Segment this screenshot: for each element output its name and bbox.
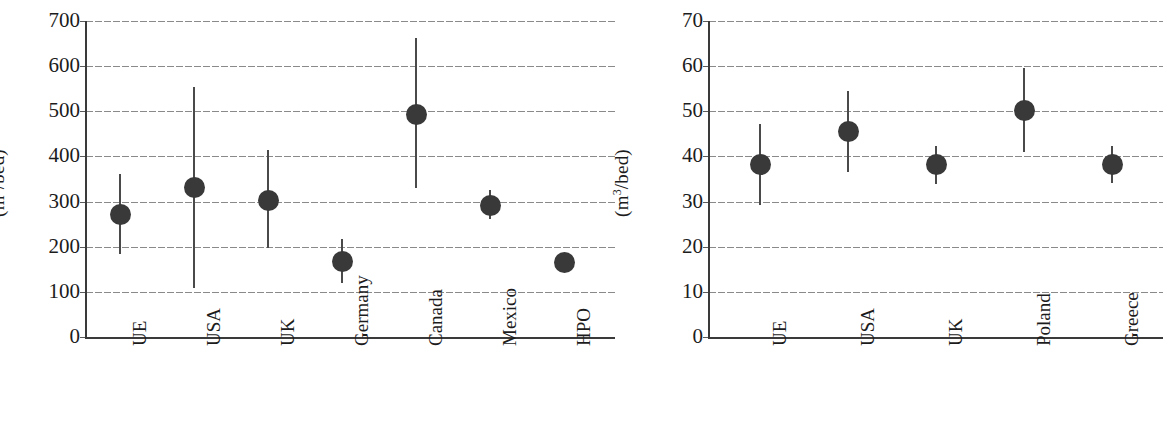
- y-tick-label: 600: [20, 55, 80, 76]
- y-tick-label: 30: [643, 191, 703, 212]
- data-point-marker: [480, 195, 501, 216]
- y-tick-mark: [80, 156, 85, 157]
- y-tick-label: 400: [20, 145, 80, 166]
- data-point-marker: [110, 204, 131, 225]
- y-tick-mark: [703, 292, 708, 293]
- y-tick-label: 50: [643, 100, 703, 121]
- x-tick-label: Canada: [425, 289, 447, 346]
- y-tick-label: 60: [643, 55, 703, 76]
- y-tick-mark: [80, 21, 85, 22]
- y-tick-mark: [80, 66, 85, 67]
- y-tick-label: 300: [20, 191, 80, 212]
- right-y-axis-line: [708, 21, 710, 339]
- data-point-group: [1004, 0, 1044, 426]
- left-plot-area: [85, 0, 615, 426]
- y-tick-mark: [703, 66, 708, 67]
- y-tick-label: 20: [643, 236, 703, 257]
- data-point-group: [248, 0, 288, 426]
- y-tick-mark: [80, 292, 85, 293]
- data-point-marker: [838, 121, 859, 142]
- y-tick-label: 40: [643, 145, 703, 166]
- data-point-marker: [1014, 100, 1035, 121]
- x-tick-label: UE: [129, 321, 151, 346]
- data-point-group: [916, 0, 956, 426]
- x-tick-label: Germany: [351, 275, 373, 346]
- y-tick-mark: [80, 202, 85, 203]
- right-plot-area: [708, 0, 1163, 426]
- data-point-group: [1092, 0, 1132, 426]
- y-tick-mark: [703, 21, 708, 22]
- y-tick-mark: [703, 337, 708, 338]
- y-tick-label: 70: [643, 10, 703, 31]
- panel-right: (m3/bed) 706050403020100 UEUSAUKPolandGr…: [620, 0, 1169, 426]
- data-point-group: [396, 0, 436, 426]
- data-point-group: [828, 0, 868, 426]
- data-point-group: [544, 0, 584, 426]
- y-tick-mark: [80, 337, 85, 338]
- x-tick-label: USA: [203, 308, 225, 346]
- x-tick-label: UK: [945, 319, 967, 346]
- y-tick-mark: [703, 111, 708, 112]
- left-y-axis-title-base: (m: [0, 195, 8, 217]
- y-tick-mark: [703, 202, 708, 203]
- y-tick-mark: [703, 247, 708, 248]
- y-tick-label: 10: [643, 281, 703, 302]
- data-point-marker: [1102, 154, 1123, 175]
- data-point-marker: [750, 154, 771, 175]
- x-tick-label: Greece: [1121, 292, 1143, 346]
- x-tick-label: Mexico: [499, 288, 521, 346]
- y-tick-label: 700: [20, 10, 80, 31]
- right-y-axis-title-base: (m: [611, 195, 632, 217]
- data-point-marker: [554, 252, 575, 273]
- data-point-group: [100, 0, 140, 426]
- right-y-axis-title-superscript: 3: [610, 189, 624, 195]
- data-point-marker: [258, 190, 279, 211]
- right-y-axis-title-tail: /bed): [611, 149, 632, 189]
- right-y-axis-title: (m3/bed): [611, 149, 633, 217]
- x-tick-label: UK: [277, 319, 299, 346]
- data-point-marker: [184, 177, 205, 198]
- y-tick-label: 500: [20, 100, 80, 121]
- data-point-group: [470, 0, 510, 426]
- data-point-marker: [926, 154, 947, 175]
- panel-left: (m3/bed) 7006005004003002001000 UEUSAUKG…: [0, 0, 620, 426]
- data-point-group: [322, 0, 362, 426]
- y-tick-mark: [80, 247, 85, 248]
- y-tick-label: 0: [20, 326, 80, 347]
- y-tick-mark: [80, 111, 85, 112]
- x-tick-label: Poland: [1033, 293, 1055, 346]
- left-y-axis-title-tail: /bed): [0, 149, 8, 189]
- left-y-axis-title: (m3/bed): [0, 149, 9, 217]
- y-tick-label: 0: [643, 326, 703, 347]
- data-point-group: [174, 0, 214, 426]
- x-tick-label: USA: [857, 308, 879, 346]
- data-point-marker: [406, 104, 427, 125]
- data-point-marker: [332, 251, 353, 272]
- x-tick-label: HPO: [573, 308, 595, 346]
- y-tick-label: 200: [20, 236, 80, 257]
- data-point-group: [740, 0, 780, 426]
- left-y-axis-line: [85, 21, 87, 339]
- figure-two-panel-scatter-error-plot: (m3/bed) 7006005004003002001000 UEUSAUKG…: [0, 0, 1169, 426]
- y-tick-label: 100: [20, 281, 80, 302]
- y-tick-mark: [703, 156, 708, 157]
- x-tick-label: UE: [769, 321, 791, 346]
